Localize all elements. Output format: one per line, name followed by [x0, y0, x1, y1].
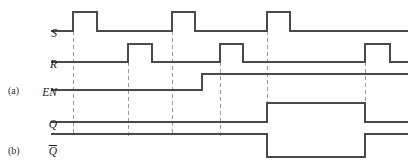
waveform-trace-q: [51, 103, 408, 122]
timing-diagram-figure: SRENQQ(a)(b): [0, 0, 414, 164]
part-label-b: (b): [8, 146, 20, 156]
signal-label-en: EN: [17, 87, 57, 99]
signal-label-text: R: [50, 58, 57, 70]
signal-label-text: Q: [49, 145, 57, 158]
signal-label-q: Q: [17, 119, 57, 131]
dashed-guide-lines: [73, 31, 365, 136]
signal-label-s: S: [17, 28, 57, 40]
waveform-trace-s: [51, 12, 408, 31]
signal-label-qbar: Q: [17, 145, 57, 158]
waveform-canvas: [0, 0, 414, 164]
waveform-trace-en: [51, 74, 408, 90]
signal-label-text: S: [51, 27, 57, 39]
signal-traces: [51, 12, 408, 157]
signal-label-text: EN: [42, 86, 57, 98]
waveform-trace-qbar: [51, 134, 408, 157]
waveform-trace-r: [51, 44, 408, 62]
signal-label-r: R: [17, 59, 57, 71]
part-label-a: (a): [8, 86, 19, 96]
signal-label-text: Q: [49, 118, 57, 130]
